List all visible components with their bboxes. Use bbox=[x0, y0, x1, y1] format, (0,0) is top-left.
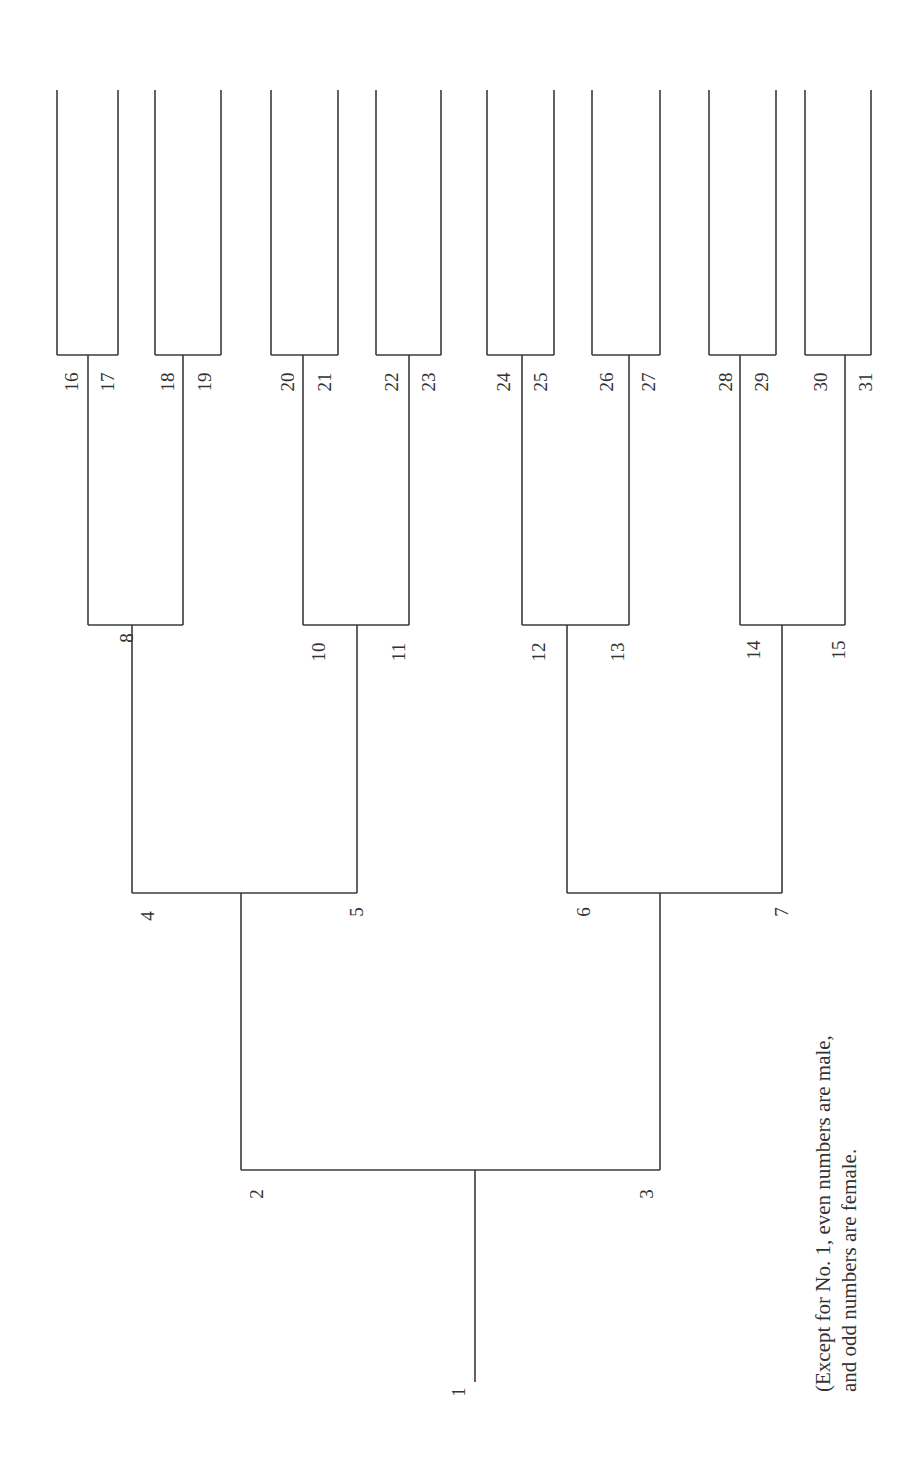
label-26: 26 bbox=[596, 373, 617, 392]
label-22: 22 bbox=[381, 373, 402, 392]
label-11: 11 bbox=[388, 643, 409, 661]
note-line-2: and odd numbers are female. bbox=[837, 1149, 861, 1392]
pedigree-chart: 1 2 3 4 5 6 7 8 10 11 12 13 14 15 16 17 … bbox=[0, 0, 920, 1461]
label-24: 24 bbox=[493, 372, 514, 392]
label-25: 25 bbox=[530, 373, 551, 392]
label-20: 20 bbox=[277, 373, 298, 392]
note-line-1: (Except for No. 1, even numbers are male… bbox=[811, 1035, 835, 1392]
label-5: 5 bbox=[346, 907, 367, 917]
label-13: 13 bbox=[607, 643, 628, 662]
label-23: 23 bbox=[418, 373, 439, 392]
label-7: 7 bbox=[771, 907, 792, 917]
label-12: 12 bbox=[528, 643, 549, 662]
label-31: 31 bbox=[855, 373, 876, 392]
label-19: 19 bbox=[194, 373, 215, 392]
label-21: 21 bbox=[314, 373, 335, 392]
label-28: 28 bbox=[715, 373, 736, 392]
label-3: 3 bbox=[636, 1189, 657, 1199]
label-1: 1 bbox=[448, 1387, 469, 1397]
label-16: 16 bbox=[61, 373, 82, 392]
label-15: 15 bbox=[828, 641, 849, 660]
label-18: 18 bbox=[157, 373, 178, 392]
label-2: 2 bbox=[246, 1189, 267, 1199]
label-6: 6 bbox=[573, 907, 594, 917]
label-29: 29 bbox=[751, 373, 772, 392]
label-4: 4 bbox=[137, 911, 158, 921]
label-10: 10 bbox=[308, 643, 329, 662]
label-30: 30 bbox=[810, 373, 831, 392]
label-17: 17 bbox=[97, 373, 118, 392]
label-27: 27 bbox=[638, 373, 659, 392]
label-14: 14 bbox=[743, 640, 764, 660]
label-8: 8 bbox=[116, 633, 137, 643]
